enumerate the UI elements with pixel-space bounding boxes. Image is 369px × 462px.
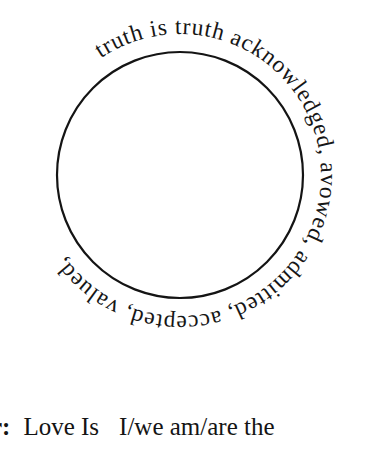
emblem-circle-outline xyxy=(57,52,303,298)
emblem-svg: truth is truth acknowledged, avowed, adm… xyxy=(0,0,369,355)
caption-line: r:Love IsI/we am/are the xyxy=(0,404,369,450)
circular-ring-text: truth is truth acknowledged, avowed, adm… xyxy=(47,13,342,337)
caption-segment-one: Love Is xyxy=(23,413,99,440)
circular-text-emblem: truth is truth acknowledged, avowed, adm… xyxy=(0,0,369,355)
ring-text-path-content: truth is truth acknowledged, avowed, adm… xyxy=(47,13,342,337)
caption-segment-two: I/we am/are the xyxy=(119,413,274,440)
caption-bold-fragment: r: xyxy=(0,413,10,440)
page-canvas: truth is truth acknowledged, avowed, adm… xyxy=(0,0,369,462)
caption-clipped-prefix: r: xyxy=(0,404,10,450)
